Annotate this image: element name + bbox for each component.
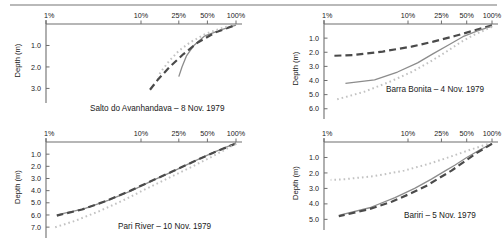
x-tick-label: 50%: [460, 129, 475, 138]
y-tick-label: 7.0: [31, 223, 41, 232]
y-tick-label: 2.0: [309, 48, 319, 57]
x-tick-label: 25%: [172, 129, 187, 138]
series-line-solid: [179, 25, 236, 77]
y-tick-label: 5.0: [31, 198, 41, 207]
x-tick-label: 10%: [134, 129, 149, 138]
chart-top-left: 1%10%25%50%100%1.02.03.0Depth (m)Salto d…: [0, 8, 252, 123]
y-tick-label: 2.0: [31, 162, 41, 171]
panel-top-left: 1%10%25%50%100%1.02.03.0Depth (m)Salto d…: [0, 8, 252, 123]
chart-top-right: 1%10%25%50%100%1.02.03.04.05.06.0Depth (…: [278, 8, 504, 123]
y-axis-title: Depth (m): [291, 51, 300, 85]
x-tick-label: 100%: [227, 129, 246, 138]
panel-bottom-left: 1%10%25%50%100%1.02.03.04.05.06.07.0Dept…: [0, 126, 252, 244]
x-tick-label: 1%: [322, 129, 333, 138]
panel-caption: Bariri – 5 Nov. 1979: [404, 211, 476, 220]
y-tick-label: 3.0: [309, 184, 319, 193]
y-axis-title: Depth (m): [291, 166, 300, 200]
series-line-solid: [345, 26, 492, 83]
y-tick-label: 1.0: [309, 34, 319, 43]
y-axis-title: Depth (m): [13, 43, 22, 77]
chart-bottom-left: 1%10%25%50%100%1.02.03.04.05.06.07.0Dept…: [0, 126, 252, 244]
x-tick-label: 50%: [200, 11, 215, 20]
x-tick-label: 1%: [322, 11, 333, 20]
series-line-dashed: [57, 143, 236, 215]
y-tick-label: 6.0: [309, 104, 319, 113]
panel-caption: Barra Bonita – 4 Nov. 1979: [386, 85, 485, 94]
series-line-solid: [339, 144, 492, 216]
x-tick-label: 100%: [227, 11, 246, 20]
y-tick-label: 1.0: [31, 41, 41, 50]
y-tick-label: 3.0: [31, 174, 41, 183]
series-line-dotted: [54, 144, 236, 228]
y-tick-label: 1.0: [31, 150, 41, 159]
y-axis-title: Depth (m): [13, 170, 22, 204]
series-line-dashed: [149, 26, 233, 91]
panel-caption: Salto do Avanhandava – 8 Nov. 1979: [90, 104, 225, 113]
x-tick-label: 10%: [401, 129, 416, 138]
panel-caption: Pari River – 10 Nov. 1979: [118, 222, 212, 231]
series-line-dotted: [331, 143, 492, 180]
x-tick-label: 25%: [172, 11, 187, 20]
x-tick-label: 10%: [134, 11, 149, 20]
y-tick-label: 4.0: [31, 186, 41, 195]
y-tick-label: 5.0: [309, 215, 319, 224]
series-line-dashed: [339, 144, 492, 216]
y-tick-label: 6.0: [31, 211, 41, 220]
x-tick-label: 10%: [401, 11, 416, 20]
x-tick-label: 50%: [460, 11, 475, 20]
y-tick-label: 3.0: [309, 62, 319, 71]
x-tick-label: 1%: [44, 129, 55, 138]
x-tick-label: 100%: [483, 11, 502, 20]
chart-bottom-right: 1%10%25%50%100%1.02.03.04.05.0Depth (m)B…: [278, 126, 504, 238]
y-tick-label: 4.0: [309, 199, 319, 208]
x-tick-label: 50%: [200, 129, 215, 138]
y-tick-label: 1.0: [309, 153, 319, 162]
panel-top-right: 1%10%25%50%100%1.02.03.04.05.06.0Depth (…: [278, 8, 504, 123]
y-tick-label: 3.0: [31, 84, 41, 93]
x-tick-label: 25%: [434, 129, 449, 138]
x-tick-label: 25%: [434, 11, 449, 20]
figure-container: 1%10%25%50%100%1.02.03.0Depth (m)Salto d…: [0, 0, 504, 247]
x-tick-label: 1%: [44, 11, 55, 20]
panel-bottom-right: 1%10%25%50%100%1.02.03.04.05.0Depth (m)B…: [278, 126, 504, 238]
x-tick-label: 100%: [483, 129, 502, 138]
y-tick-label: 4.0: [309, 76, 319, 85]
header-rule: [10, 4, 497, 6]
y-tick-label: 2.0: [309, 169, 319, 178]
series-line-dashed: [334, 25, 492, 55]
y-tick-label: 2.0: [31, 63, 41, 72]
y-tick-label: 5.0: [309, 90, 319, 99]
